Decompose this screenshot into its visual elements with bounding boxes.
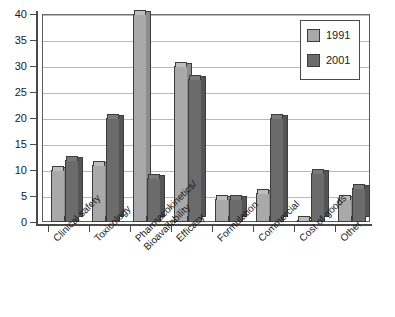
bar-1991-4 bbox=[215, 199, 229, 222]
y-axis-label: 15 bbox=[0, 139, 27, 150]
bar-2001-1 bbox=[106, 118, 120, 222]
legend-swatch-1991 bbox=[307, 29, 320, 42]
bar-1991-2 bbox=[133, 14, 147, 222]
legend: 1991 2001 bbox=[300, 20, 360, 80]
x-axis-tick bbox=[253, 226, 254, 232]
legend-swatch-2001 bbox=[307, 54, 320, 67]
y-axis-tick bbox=[30, 92, 36, 93]
x-axis-tick bbox=[171, 226, 172, 232]
y-axis-tick bbox=[30, 66, 36, 67]
y-axis-label: 30 bbox=[0, 61, 27, 72]
y-axis-label: 25 bbox=[0, 87, 27, 98]
y-axis-tick bbox=[30, 222, 36, 223]
y-axis-label: 20 bbox=[0, 113, 27, 124]
x-axis-tick bbox=[130, 226, 131, 232]
x-axis-tick bbox=[48, 226, 49, 232]
gridline bbox=[43, 15, 369, 16]
legend-entry-2001: 2001 bbox=[307, 54, 350, 67]
bar-top-face bbox=[175, 62, 187, 67]
y-axis-tick bbox=[30, 170, 36, 171]
legend-label-2001: 2001 bbox=[326, 55, 350, 66]
bar-top-face bbox=[189, 75, 201, 80]
gridline bbox=[43, 93, 369, 94]
bar-top-face bbox=[134, 10, 146, 15]
legend-label-1991: 1991 bbox=[326, 30, 350, 41]
bar-chart: 0510152025303540 Clinical safetyToxicolo… bbox=[0, 0, 395, 317]
bar-1991-0 bbox=[51, 170, 65, 222]
y-axis-label: 35 bbox=[0, 35, 27, 46]
y-axis-label: 5 bbox=[0, 191, 27, 202]
bar-top-face bbox=[312, 169, 324, 174]
category-label: Other bbox=[338, 218, 364, 244]
bar-top-face bbox=[257, 189, 269, 194]
x-axis-tick bbox=[294, 226, 295, 232]
bar-top-face bbox=[271, 114, 283, 119]
bar-top-face bbox=[148, 174, 160, 179]
bar-top-face bbox=[93, 161, 105, 166]
y-axis-label: 10 bbox=[0, 165, 27, 176]
bar-top-face bbox=[298, 216, 310, 221]
bar-side-face bbox=[119, 115, 124, 217]
gridline bbox=[43, 145, 369, 146]
legend-entry-1991: 1991 bbox=[307, 29, 350, 42]
bar-top-face bbox=[230, 195, 242, 200]
category-label-line: Other bbox=[338, 218, 363, 243]
bar-top-face bbox=[216, 195, 228, 200]
bar-2001-5 bbox=[270, 118, 284, 222]
y-axis-tick bbox=[30, 40, 36, 41]
y-axis-tick bbox=[30, 14, 36, 15]
y-axis-label: 40 bbox=[0, 9, 27, 20]
bar-side-face bbox=[365, 185, 370, 217]
bar-top-face bbox=[66, 156, 78, 161]
y-axis-tick bbox=[30, 144, 36, 145]
y-axis-label: 0 bbox=[0, 217, 27, 228]
bar-top-face bbox=[107, 114, 119, 119]
x-axis-tick bbox=[89, 226, 90, 232]
bar-2001-7 bbox=[352, 188, 366, 222]
gridline bbox=[43, 119, 369, 120]
y-axis-tick bbox=[30, 196, 36, 197]
bar-1991-6 bbox=[297, 220, 311, 222]
bar-top-face bbox=[52, 166, 64, 171]
bar-top-face bbox=[353, 184, 365, 189]
x-axis-tick bbox=[212, 226, 213, 232]
bar-side-face bbox=[283, 115, 288, 217]
y-axis-tick bbox=[30, 118, 36, 119]
y-axis-line bbox=[36, 11, 38, 225]
x-axis-tick bbox=[335, 226, 336, 232]
